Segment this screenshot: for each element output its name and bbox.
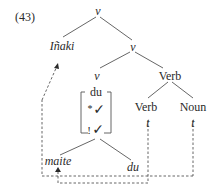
branch-vprime-v	[100, 52, 130, 68]
branch-root-spec	[63, 17, 96, 37]
branch-to-du	[100, 139, 131, 160]
node-verb: Verb	[135, 101, 158, 113]
node-vprime: v	[130, 41, 135, 53]
trace-noun: t	[191, 117, 194, 129]
leaf-maite: maite	[45, 155, 72, 167]
branch-root-vprime	[100, 17, 132, 40]
check-icon: ✓	[92, 123, 104, 135]
node-v-head: v	[94, 70, 99, 82]
bracket-star-mark: *	[88, 103, 93, 115]
branch-vprime-verb	[135, 52, 163, 68]
node-noun: Noun	[180, 101, 207, 113]
example-number: (43)	[15, 11, 35, 23]
trace-verb: t	[146, 117, 149, 129]
arrowhead-inaki-icon	[54, 63, 59, 69]
dashed-to-inaki	[42, 66, 57, 100]
node-verb-phrase: Verb	[159, 70, 182, 82]
check-icon: ✓	[93, 103, 105, 115]
node-root-v: v	[95, 5, 100, 17]
branch-verb-verb	[148, 82, 168, 98]
bracket-top-du: du	[90, 86, 102, 98]
bracket-right	[104, 92, 111, 133]
bracket-bang-mark: !	[87, 124, 91, 136]
tree-lines	[0, 0, 219, 195]
node-spec-inaki: Iñaki	[50, 40, 75, 52]
syntax-tree-diagram: (43) v Iñaki v v Verb Verb Noun t t du *…	[0, 0, 219, 195]
branch-verb-noun	[172, 82, 193, 98]
branch-to-maite	[60, 139, 95, 155]
leaf-du: du	[127, 161, 139, 173]
